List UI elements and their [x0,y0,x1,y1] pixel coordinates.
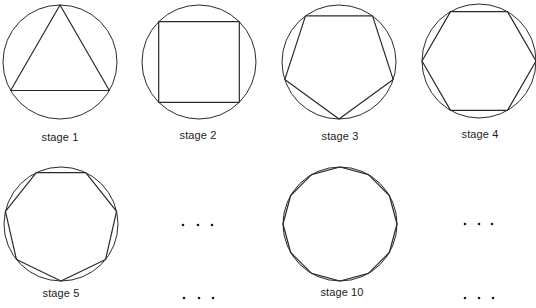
circumscribed-circle [4,167,118,281]
circumscribed-circle [3,5,117,119]
ellipsis-dot [464,223,467,226]
inscribed-polygons-diagram [0,0,536,308]
ellipsis-right-row2 [464,223,494,226]
stage-10-label: stage 10 [320,286,363,298]
ellipsis-right-row2-label [464,297,495,300]
stage-1-label: stage 1 [42,131,79,143]
inscribed-polygon-12-sides [283,167,397,281]
circumscribed-circle [283,167,397,281]
stage-5-figure [4,167,118,281]
circumscribed-circle [282,5,396,119]
ellipsis-dot [212,297,215,300]
stage-2-label: stage 2 [180,129,217,141]
circumscribed-circle [422,4,536,118]
stage-4-label: stage 4 [462,128,499,140]
ellipsis-dot [183,297,186,300]
stage-10-figure [283,167,397,281]
ellipsis-dot [211,224,214,227]
inscribed-polygon-6-sides [422,12,536,111]
stages-group [3,4,536,281]
ellipsis-middle-row2 [182,224,214,227]
inscribed-polygon-3-sides [11,5,110,91]
stage-4-figure [422,4,536,118]
ellipsis-dot [464,297,467,300]
stage-3-label: stage 3 [322,130,359,142]
ellipsis-dot [491,223,494,226]
ellipsis-dot [478,297,481,300]
ellipsis-dot [492,297,495,300]
inscribed-polygon-4-sides [159,22,240,103]
stage-1-figure [3,5,117,119]
inscribed-polygon-5-sides [285,16,393,119]
ellipsis-dot [478,223,481,226]
ellipsis-dot [182,224,185,227]
ellipsis-middle-row2-label [183,297,215,300]
ellipsis-dot [198,297,201,300]
stage-2-figure [142,5,256,119]
ellipsis-dot [197,224,200,227]
stage-5-label: stage 5 [43,287,80,299]
stage-3-figure [282,5,396,119]
inscribed-polygon-7-sides [5,173,116,281]
